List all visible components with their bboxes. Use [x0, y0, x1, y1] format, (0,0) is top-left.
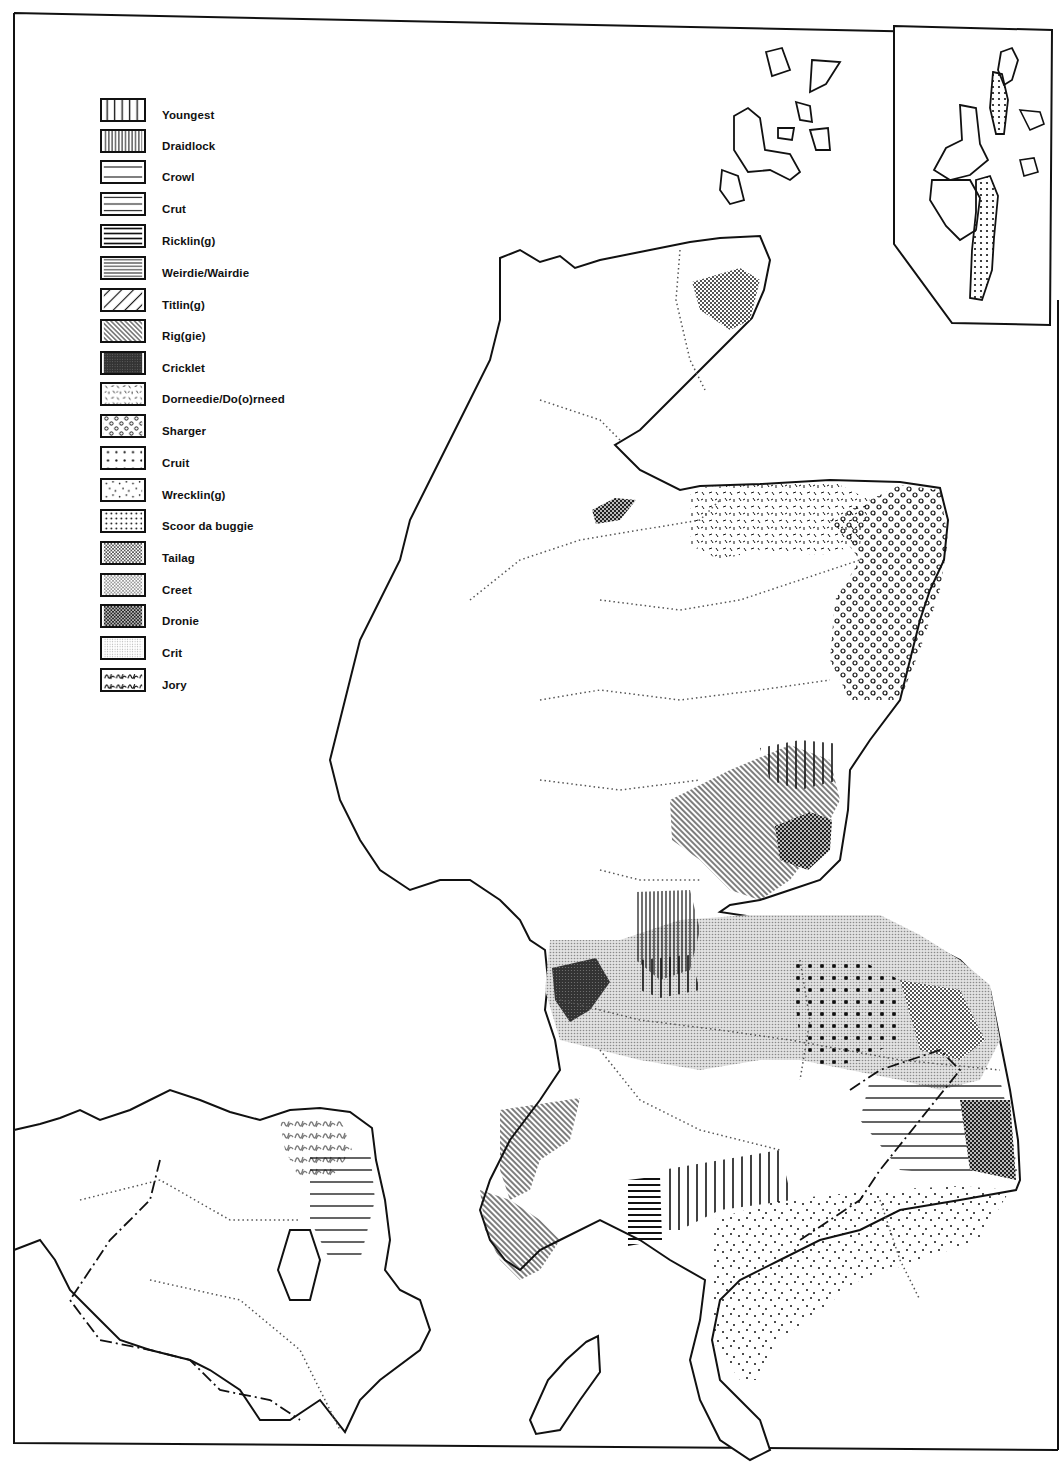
pattern-swatch-diagonal-dense-icon [100, 319, 146, 343]
pattern-swatch-stipple-icon [100, 636, 146, 660]
pattern-swatch-dots-scattered-icon [100, 478, 146, 502]
pattern-swatch-checker-light-icon [100, 573, 146, 597]
pattern-swatch-dots-medium-icon [100, 446, 146, 470]
legend-item-tailag: Tailag [100, 539, 195, 567]
legend-label: Titlin(g) [162, 299, 205, 311]
pattern-swatch-horizontal-dense-icon [100, 256, 146, 280]
legend-item-crit: Crit [100, 634, 182, 662]
legend-label: Crut [162, 203, 186, 215]
pattern-swatch-horizontal-sparse-icon [100, 160, 146, 184]
pattern-swatch-diagonal-sparse-icon [100, 288, 146, 312]
legend-label: Cruit [162, 457, 189, 469]
legend-item-crut: Crut [100, 190, 186, 218]
pattern-swatch-checker-dark-icon [100, 604, 146, 628]
pattern-swatch-vertical-sparse-icon [100, 98, 146, 122]
legend-item-titlin: Titlin(g) [100, 286, 205, 314]
pattern-swatch-horizontal-medium-icon [100, 192, 146, 216]
pattern-swatch-vertical-dense-icon [100, 129, 146, 153]
legend-label: Jory [162, 679, 187, 691]
legend-item-draidlock: Draidlock [100, 127, 215, 155]
legend-label: Weirdie/Wairdie [162, 267, 249, 279]
legend-label: Crowl [162, 171, 194, 183]
legend-item-crowl: Crowl [100, 158, 194, 186]
pattern-swatch-checker-medium-icon [100, 541, 146, 565]
isle-of-man [530, 1336, 600, 1434]
legend-label: Rig(gie) [162, 330, 206, 342]
scotland-mainland [330, 236, 1020, 1460]
legend-item-creet: Creet [100, 571, 192, 599]
legend-item-ricklin: Ricklin(g) [100, 222, 215, 250]
legend-item-rig: Rig(gie) [100, 317, 206, 345]
pattern-swatch-dark-icon [100, 351, 146, 375]
legend-label: Cricklet [162, 362, 205, 374]
region-sharger [830, 485, 948, 700]
legend-label: Youngest [162, 109, 214, 121]
legend-label: Dronie [162, 615, 199, 627]
legend-label: Tailag [162, 552, 195, 564]
pattern-swatch-dots-dense-icon [100, 509, 146, 533]
legend-label: Dorneedie/Do(o)rneed [162, 393, 285, 405]
pattern-swatch-wavy-icon [100, 668, 146, 692]
legend-item-jory: Jory [100, 666, 187, 694]
legend-label: Wrecklin(g) [162, 489, 226, 501]
legend-item-scoor-da-buggie: Scoor da buggie [100, 507, 254, 535]
pattern-swatch-horizontal-bold-icon [100, 224, 146, 248]
dialect-map [0, 0, 1061, 1462]
legend-label: Creet [162, 584, 192, 596]
legend-item-wrecklin: Wrecklin(g) [100, 476, 226, 504]
pattern-swatch-dashes-icon [100, 382, 146, 406]
legend-label: Scoor da buggie [162, 520, 254, 532]
legend-item-cruit: Cruit [100, 444, 189, 472]
legend-item-weirdie: Weirdie/Wairdie [100, 254, 249, 282]
legend-label: Crit [162, 647, 182, 659]
legend-label: Draidlock [162, 140, 215, 152]
region-youngest-lanark [640, 955, 700, 998]
pattern-swatch-circles-icon [100, 414, 146, 438]
legend-item-sharger: Sharger [100, 412, 206, 440]
region-wrecklin-cumbria [712, 1186, 1010, 1380]
region-ricklin-dumfries [628, 1176, 662, 1246]
legend-item-youngest: Youngest [100, 96, 214, 124]
legend-label: Ricklin(g) [162, 235, 215, 247]
legend-label: Sharger [162, 425, 206, 437]
legend-item-cricklet: Cricklet [100, 349, 205, 377]
shetland-inset [894, 26, 1052, 325]
legend-item-dorneedie: Dorneedie/Do(o)rneed [100, 380, 285, 408]
legend-item-dronie: Dronie [100, 602, 199, 630]
orkney-islands [720, 48, 840, 204]
northern-ireland [14, 1090, 430, 1432]
